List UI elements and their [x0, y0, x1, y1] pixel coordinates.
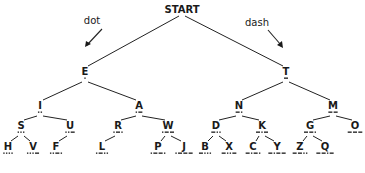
dot-symbol: [261, 132, 262, 133]
node-label: C: [249, 141, 256, 152]
dash-symbol: [268, 153, 272, 154]
morse-code-symbol: [348, 132, 363, 133]
dot-symbol: [53, 153, 54, 154]
node-label: G: [306, 120, 314, 131]
node-c: C: [246, 141, 261, 154]
node-label: Y: [272, 141, 281, 152]
dot-symbol: [96, 153, 97, 154]
dash-direction-indicator: dash: [245, 17, 283, 48]
dash-symbol: [153, 153, 157, 154]
morse-code-symbol: [236, 112, 243, 113]
dash-symbol: [353, 132, 357, 133]
morse-code-symbol: [316, 153, 333, 154]
morse-code-symbol: [113, 132, 122, 133]
dash-symbol: [183, 153, 187, 154]
node-label: P: [154, 141, 161, 152]
node-m: M: [328, 100, 338, 113]
edge-I-S: [24, 116, 37, 120]
dot-symbol: [210, 153, 211, 154]
morse-code-symbol: [246, 153, 261, 154]
morse-tree-diagram: dot dash STARTETIANMSURWDKGOHVFLPJBXCYZQ: [0, 0, 365, 173]
dot-symbol: [303, 153, 304, 154]
edge-E-I: [43, 82, 82, 100]
dot-symbol: [151, 153, 152, 154]
dash-symbol: [159, 153, 163, 154]
dot-symbol: [162, 132, 163, 133]
dot-symbol: [241, 112, 242, 113]
edge-M-G: [313, 116, 330, 120]
morse-code-symbol: [293, 153, 308, 154]
dot-symbol: [230, 153, 231, 154]
dot-symbol: [164, 153, 165, 154]
dash-symbol: [322, 153, 326, 154]
node-o: O: [348, 120, 363, 133]
edge-I-U: [43, 116, 67, 120]
dot-symbol: [121, 132, 122, 133]
node-y: Y: [268, 141, 285, 154]
dot-symbol: [113, 132, 114, 133]
edge-E-A: [88, 82, 136, 100]
dot-symbol: [306, 153, 307, 154]
arrow-down-left-icon: [85, 29, 102, 47]
node-w: W: [162, 120, 174, 133]
dash-symbol: [189, 153, 193, 154]
morse-code-symbol: [256, 132, 268, 133]
dot-symbol: [38, 112, 39, 113]
dot-symbol: [207, 153, 208, 154]
node-label: U: [66, 120, 74, 131]
dash-symbol: [165, 132, 169, 133]
morse-code-symbol: [96, 153, 108, 154]
dot-symbol: [175, 153, 176, 154]
dot-symbol: [41, 112, 42, 113]
node-label: K: [258, 120, 267, 131]
dash-symbol: [298, 153, 302, 154]
edge-R-L: [105, 136, 115, 141]
dot-symbol: [251, 153, 252, 154]
morse-code-symbol: [84, 78, 85, 79]
dash-symbol: [232, 153, 236, 154]
dot-symbol: [61, 153, 62, 154]
dot-symbol: [11, 153, 12, 154]
morse-code-symbol: [162, 132, 174, 133]
morse-code-symbol: [284, 78, 288, 79]
edge-W-J: [171, 136, 181, 141]
morse-code-symbol: [65, 132, 74, 133]
dot-symbol: [20, 132, 21, 133]
node-l: L: [96, 141, 108, 154]
node-label: T: [283, 66, 290, 77]
edge-A-R: [121, 116, 136, 120]
node-label: M: [328, 100, 338, 111]
dot-symbol: [23, 132, 24, 133]
morse-code-symbol: [50, 153, 62, 154]
node-e: E: [82, 66, 89, 79]
node-label: D: [212, 120, 220, 131]
node-label: A: [135, 100, 143, 111]
dash-symbol: [199, 153, 203, 154]
edge-N-K: [242, 116, 259, 120]
morse-code-symbol: [151, 153, 166, 154]
edge-START-E: [88, 16, 179, 66]
dot-symbol: [9, 153, 10, 154]
edge-T-M: [289, 82, 330, 100]
node-n: N: [235, 100, 243, 113]
node-k: K: [256, 120, 268, 133]
dash-symbol: [284, 78, 288, 79]
dash-symbol: [348, 132, 352, 133]
morse-code-symbol: [3, 153, 13, 154]
dash-symbol: [222, 153, 226, 154]
node-label: F: [53, 141, 60, 152]
node-label: I: [38, 100, 42, 111]
dash-symbol: [99, 153, 103, 154]
node-label: X: [225, 141, 233, 152]
dash-symbol: [55, 153, 59, 154]
dot-symbol: [27, 153, 28, 154]
dot-label: dot: [84, 15, 100, 26]
node-label: O: [351, 120, 360, 131]
node-g: G: [304, 120, 316, 133]
tree-nodes: STARTETIANMSURWDKGOHVFLPJBXCYZQ: [3, 4, 362, 154]
node-label: E: [82, 66, 89, 77]
arrow-down-right-icon: [268, 30, 283, 48]
dash-symbol: [254, 153, 258, 154]
morse-code-symbol: [222, 153, 237, 154]
node-f: F: [50, 141, 62, 154]
